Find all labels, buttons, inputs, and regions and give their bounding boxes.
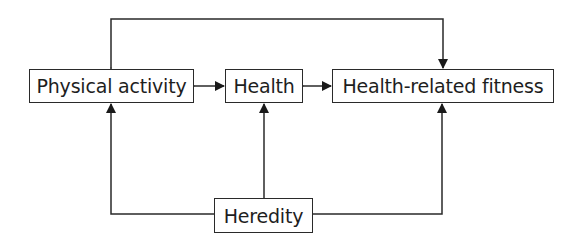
node-physical-activity: Physical activity: [29, 69, 194, 103]
diagram: Physical activity Health Health-related …: [0, 0, 581, 246]
edge-heredity-hrf: [312, 104, 442, 214]
node-label: Health-related fitness: [342, 75, 543, 97]
edge-heredity-physical-activity: [111, 104, 214, 214]
node-health: Health: [225, 69, 303, 103]
node-label: Physical activity: [37, 75, 187, 97]
node-label: Heredity: [224, 205, 304, 227]
edge-physical-activity-to-hrf-top: [111, 19, 443, 68]
node-health-related-fitness: Health-related fitness: [332, 69, 554, 103]
node-heredity: Heredity: [214, 198, 313, 233]
node-label: Health: [233, 75, 294, 97]
